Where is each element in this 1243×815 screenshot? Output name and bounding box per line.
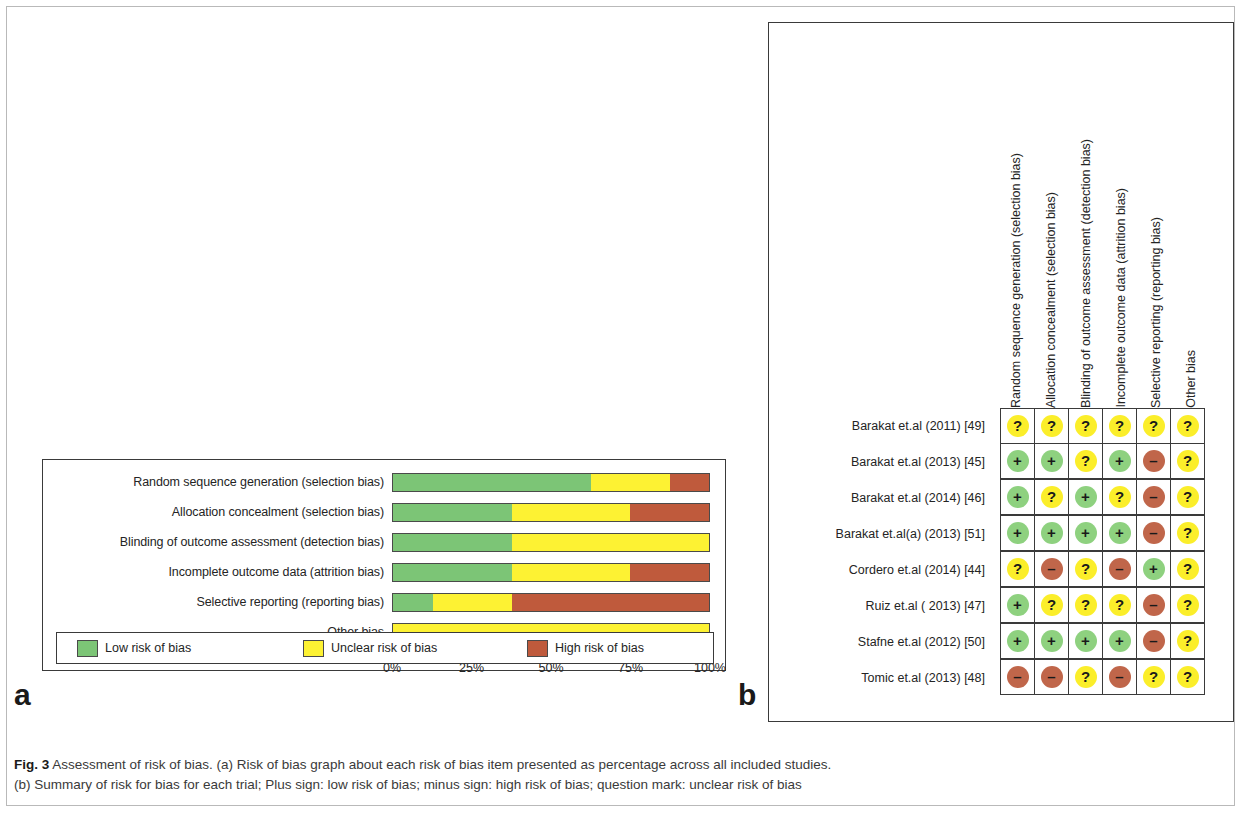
caption-line-2: (b) Summary of risk for bias for each tr… <box>14 775 1224 795</box>
risk-cell: + <box>1068 623 1103 659</box>
risk-cell: ? <box>1034 408 1069 444</box>
bar-segment-unclear <box>512 504 631 521</box>
bar-segment-low <box>393 474 591 491</box>
low-risk-plus-icon: + <box>1007 522 1029 544</box>
bar-row-label: Random sequence generation (selection bi… <box>43 475 392 489</box>
risk-symbol-glyph: ? <box>1013 418 1022 433</box>
table-row: Ruiz et.al ( 2013) [47]+???–? <box>1001 588 1211 624</box>
unclear-risk-question-icon: ? <box>1075 450 1097 472</box>
risk-cell: ? <box>1170 515 1205 551</box>
risk-symbol-glyph: ? <box>1115 489 1124 504</box>
risk-symbol-glyph: ? <box>1115 418 1124 433</box>
low-risk-plus-icon: + <box>1007 630 1029 652</box>
bar-segment-high <box>670 474 710 491</box>
high-risk-minus-icon: – <box>1143 594 1165 616</box>
risk-symbol-glyph: ? <box>1081 561 1090 576</box>
risk-cell: ? <box>1170 659 1205 695</box>
risk-cell: ? <box>1170 587 1205 623</box>
high-risk-minus-icon: – <box>1041 666 1063 688</box>
study-label: Barakat et.al (2014) [46] <box>769 480 995 516</box>
table-row: Tomic et.al (2013) [48]––?–?? <box>1001 660 1211 696</box>
bar-segment-low <box>393 594 433 611</box>
risk-cell: ? <box>1000 551 1035 587</box>
column-header-label: Blinding of outcome assessment (detectio… <box>1080 139 1093 408</box>
risk-symbol-glyph: + <box>1149 561 1158 576</box>
risk-symbol-glyph: – <box>1149 633 1157 648</box>
study-label: Cordero et.al (2014) [44] <box>769 552 995 588</box>
risk-cell: + <box>1034 515 1069 551</box>
column-header-row: Random sequence generation (selection bi… <box>1001 23 1211 408</box>
bar-row-label: Allocation concealment (selection bias) <box>43 505 392 519</box>
risk-symbol-glyph: + <box>1013 597 1022 612</box>
unclear-risk-question-icon: ? <box>1177 522 1199 544</box>
risk-symbol-glyph: ? <box>1081 597 1090 612</box>
risk-cell: ? <box>1068 659 1103 695</box>
risk-symbol-glyph: ? <box>1013 561 1022 576</box>
risk-symbol-glyph: ? <box>1183 633 1192 648</box>
risk-symbol-glyph: ? <box>1047 418 1056 433</box>
bar-row-label: Selective reporting (reporting bias) <box>43 595 392 609</box>
legend-item-high: High risk of bias <box>527 640 644 657</box>
risk-cell: + <box>1102 443 1137 479</box>
table-row: Barakat et.al (2014) [46]+?+?–? <box>1001 480 1211 516</box>
low-risk-plus-icon: + <box>1007 594 1029 616</box>
high-risk-minus-icon: – <box>1007 666 1029 688</box>
risk-cell: + <box>1136 551 1171 587</box>
bar-track <box>392 563 710 582</box>
high-risk-minus-icon: – <box>1041 558 1063 580</box>
high-risk-minus-icon: – <box>1109 666 1131 688</box>
low-risk-plus-icon: + <box>1007 450 1029 472</box>
risk-symbol-glyph: + <box>1081 633 1090 648</box>
unclear-risk-question-icon: ? <box>1041 415 1063 437</box>
low-risk-plus-icon: + <box>1075 522 1097 544</box>
risk-symbol-glyph: + <box>1115 453 1124 468</box>
study-label: Stafne et.al (2012) [50] <box>769 624 995 660</box>
study-label: Barakat et.al(a) (2013) [51] <box>769 516 995 552</box>
bar-row: Blinding of outcome assessment (detectio… <box>43 529 727 555</box>
high-risk-minus-icon: – <box>1143 450 1165 472</box>
risk-cell: ? <box>1068 551 1103 587</box>
figure-caption: Fig. 3 Assessment of risk of bias. (a) R… <box>14 755 1224 795</box>
risk-symbol-glyph: – <box>1149 525 1157 540</box>
risk-symbol-glyph: + <box>1047 633 1056 648</box>
unclear-risk-question-icon: ? <box>1075 415 1097 437</box>
risk-cell: ? <box>1170 443 1205 479</box>
risk-cell: + <box>1102 623 1137 659</box>
unclear-risk-question-icon: ? <box>1041 486 1063 508</box>
panel-a-legend: Low risk of biasUnclear risk of biasHigh… <box>56 632 714 664</box>
legend-label: Low risk of bias <box>105 641 191 655</box>
bar-segment-low <box>393 504 512 521</box>
risk-cell: – <box>1136 443 1171 479</box>
column-header: Random sequence generation (selection bi… <box>1001 23 1036 408</box>
study-label: Barakat et.al (2011) [49] <box>769 408 995 444</box>
risk-symbol-glyph: ? <box>1081 418 1090 433</box>
risk-cell: – <box>1136 515 1171 551</box>
risk-symbol-glyph: + <box>1013 489 1022 504</box>
unclear-risk-question-icon: ? <box>1177 450 1199 472</box>
risk-of-bias-matrix: Barakat et.al (2011) [49]??????Barakat e… <box>1001 408 1211 696</box>
column-header: Allocation concealment (selection bias) <box>1036 23 1071 408</box>
bar-segment-low <box>393 534 512 551</box>
bar-row-label: Blinding of outcome assessment (detectio… <box>43 535 392 549</box>
risk-cell: + <box>1000 515 1035 551</box>
unclear-risk-question-icon: ? <box>1007 558 1029 580</box>
column-header: Other bias <box>1176 23 1211 408</box>
risk-symbol-glyph: ? <box>1183 669 1192 684</box>
risk-cell: ? <box>1068 408 1103 444</box>
unclear-risk-question-icon: ? <box>1007 415 1029 437</box>
panel-a-letter: a <box>14 678 31 712</box>
low-risk-plus-icon: + <box>1075 630 1097 652</box>
risk-cell: ? <box>1102 479 1137 515</box>
risk-symbol-glyph: ? <box>1183 418 1192 433</box>
table-row: Barakat et.al (2013) [45]++?+–? <box>1001 444 1211 480</box>
risk-symbol-glyph: ? <box>1183 561 1192 576</box>
risk-cell: + <box>1068 479 1103 515</box>
bar-track <box>392 593 710 612</box>
risk-cell: ? <box>1170 479 1205 515</box>
risk-cell: ? <box>1068 587 1103 623</box>
risk-symbol-glyph: – <box>1047 561 1055 576</box>
panel-b-letter: b <box>738 678 756 712</box>
risk-cell: – <box>1000 659 1035 695</box>
risk-cell: ? <box>1034 587 1069 623</box>
risk-symbol-glyph: + <box>1013 525 1022 540</box>
